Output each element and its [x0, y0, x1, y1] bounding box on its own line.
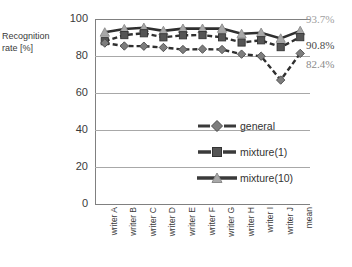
legend-marker-general	[196, 118, 238, 134]
y-tick-label: 20	[48, 160, 88, 172]
x-tick-label: writer B	[128, 207, 138, 267]
annotation-mixture10-value: 93.7%	[306, 13, 334, 25]
x-tick-label: writer H	[246, 207, 256, 267]
gridline	[95, 56, 310, 57]
legend-marker-mixture1	[196, 144, 238, 160]
recognition-rate-chart: Recognition rate [%] 100806040200 writer…	[0, 0, 352, 267]
y-tick-label: 60	[48, 86, 88, 98]
legend-item-mixture10: mixture(10)	[196, 170, 316, 196]
x-tick-label: writer J	[285, 207, 295, 267]
x-tick-label: writer I	[265, 207, 275, 267]
legend-label-mixture1: mixture(1)	[240, 146, 287, 158]
y-tick-label: 100	[48, 12, 88, 24]
x-axis-tick-labels: writer Awriter Bwriter Cwriter Dwriter E…	[95, 205, 310, 265]
x-tick-label: writer E	[187, 207, 197, 267]
y-tick-label: 80	[48, 49, 88, 61]
x-tick-label: writer C	[148, 207, 158, 267]
legend-marker-mixture10	[196, 170, 238, 186]
y-tick-label: 0	[48, 197, 88, 209]
legend-item-mixture1: mixture(1)	[196, 144, 316, 170]
x-tick-label: writer F	[207, 207, 217, 267]
legend-label-general: general	[240, 120, 275, 132]
x-tick-label: mean	[304, 207, 314, 267]
annotation-mixture1-value: 90.8%	[306, 39, 334, 51]
gridline	[95, 93, 310, 94]
legend-item-general: general	[196, 118, 316, 144]
x-tick-label: writer G	[226, 207, 236, 267]
x-tick-label: writer A	[109, 207, 119, 267]
legend: general mixture(1) mixture(10)	[196, 118, 316, 196]
annotation-general-value: 82.4%	[306, 58, 334, 70]
x-tick-label: writer D	[167, 207, 177, 267]
legend-label-mixture10: mixture(10)	[240, 172, 293, 184]
y-tick-label: 40	[48, 123, 88, 135]
y-axis-title-line1: Recognition	[2, 31, 72, 43]
